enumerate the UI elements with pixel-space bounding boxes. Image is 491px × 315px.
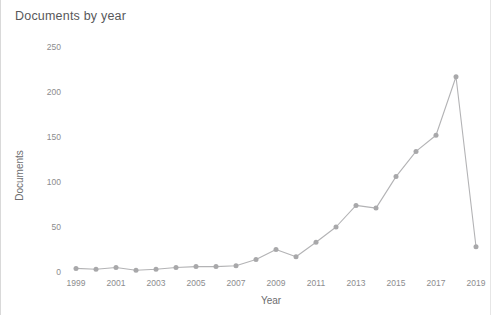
- data-point: [414, 149, 419, 154]
- series-markers: [74, 74, 479, 273]
- data-point: [254, 257, 259, 262]
- data-point: [454, 74, 459, 79]
- series-line: [76, 77, 476, 271]
- data-point: [314, 240, 319, 245]
- chart-frame: Documents by year Documents Year 250 200…: [0, 0, 491, 315]
- data-point: [214, 264, 219, 269]
- data-point: [174, 265, 179, 270]
- data-point: [334, 225, 339, 230]
- line-series: [1, 0, 491, 315]
- data-point: [374, 206, 379, 211]
- data-point: [234, 263, 239, 268]
- data-point: [154, 267, 159, 272]
- data-point: [394, 174, 399, 179]
- data-point: [274, 247, 279, 252]
- data-point: [114, 265, 119, 270]
- data-point: [474, 244, 479, 249]
- data-point: [134, 268, 139, 273]
- data-point: [294, 254, 299, 259]
- plot-area: Documents Year 250 200 150 100 50 0 1999…: [1, 0, 491, 315]
- data-point: [194, 264, 199, 269]
- data-point: [434, 133, 439, 138]
- data-point: [74, 266, 79, 271]
- data-point: [354, 203, 359, 208]
- data-point: [94, 267, 99, 272]
